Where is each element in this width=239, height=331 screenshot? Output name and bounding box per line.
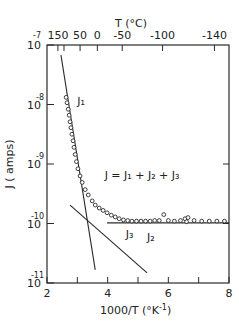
top-axis-title: T (°C) — [114, 17, 147, 30]
data-point — [215, 219, 219, 223]
x-axis-title: 1000/T (°K-1) — [100, 303, 171, 317]
data-point — [179, 219, 183, 223]
data-points — [64, 95, 226, 223]
y-tick-label-base: 10 — [27, 39, 41, 52]
x-axis-title-main: 1000/T (°K — [100, 304, 160, 317]
data-point — [90, 199, 94, 203]
data-point — [153, 219, 157, 223]
data-point — [76, 167, 80, 171]
data-point — [73, 153, 77, 157]
y-tick-label-exponent: -8 — [36, 93, 44, 102]
data-point — [207, 219, 211, 223]
plot-frame — [47, 45, 229, 283]
data-point — [105, 211, 109, 215]
data-point — [162, 213, 166, 217]
data-point — [157, 219, 161, 223]
data-point — [144, 219, 148, 223]
data-point — [200, 219, 204, 223]
x-tick-label: 2 — [44, 287, 51, 300]
data-point — [148, 219, 152, 223]
top-tick-label: -100 — [150, 29, 175, 42]
line-J₃ — [70, 205, 147, 273]
data-point — [83, 188, 87, 192]
data-point — [117, 217, 121, 221]
data-point — [66, 107, 70, 111]
data-point — [223, 219, 227, 223]
data-point — [80, 181, 84, 185]
data-point — [135, 219, 139, 223]
data-point — [75, 160, 79, 164]
data-point — [93, 203, 97, 207]
chart: 2468-7150500-50-100-1401010-810-910-1010… — [0, 0, 239, 331]
data-point — [72, 145, 76, 149]
top-tick-label: -140 — [202, 29, 227, 42]
data-point — [166, 219, 170, 223]
y-tick-label-exponent: -9 — [36, 152, 44, 161]
x-tick-label: 6 — [165, 287, 172, 300]
top-tick-label: 50 — [73, 29, 87, 42]
data-point — [186, 216, 190, 220]
data-point — [86, 193, 90, 197]
data-point — [130, 219, 134, 223]
data-point — [64, 95, 68, 99]
x-tick-label: 8 — [226, 287, 233, 300]
data-point — [67, 113, 71, 117]
data-point — [192, 219, 196, 223]
y-tick-label-exponent: -10 — [31, 212, 44, 221]
top-tick-label: 0 — [94, 29, 101, 42]
data-point — [113, 215, 117, 219]
annotation: J₂ — [146, 231, 155, 244]
top-tick-label: 150 — [47, 29, 68, 42]
data-point — [68, 120, 72, 124]
annotation: J₁ — [76, 95, 85, 108]
data-point — [139, 219, 143, 223]
data-point — [122, 218, 126, 222]
plot-border — [47, 45, 229, 283]
model-lines — [61, 55, 229, 273]
data-point — [78, 174, 82, 178]
axis-ticks — [47, 45, 229, 283]
x-axis-title-close: ) — [167, 304, 171, 317]
data-point — [71, 139, 75, 143]
data-point — [185, 220, 189, 224]
top-tick-label: -50 — [113, 29, 131, 42]
y-axis-title: J ( amps) — [3, 140, 16, 190]
x-axis-title-sup: -1 — [159, 303, 167, 312]
x-tick-label: 4 — [104, 287, 111, 300]
annotation: J = J₁ + J₂ + J₃ — [104, 169, 180, 182]
data-point — [109, 213, 113, 217]
data-point — [65, 101, 69, 105]
data-point — [70, 132, 74, 136]
data-point — [69, 126, 73, 130]
data-point — [173, 219, 177, 223]
data-point — [126, 219, 130, 223]
y-tick-label-exponent: -11 — [31, 271, 44, 280]
data-point — [97, 206, 101, 210]
data-point — [101, 209, 105, 213]
axis-labels: 2468-7150500-50-100-1401010-810-910-1010… — [27, 29, 233, 300]
annotation: J₃ — [125, 228, 134, 241]
